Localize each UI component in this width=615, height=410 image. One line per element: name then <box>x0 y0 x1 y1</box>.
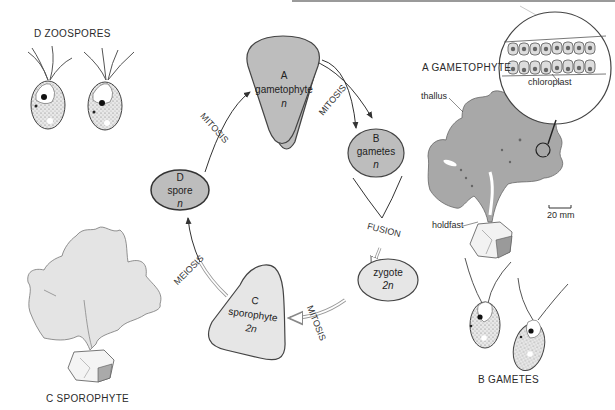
gametophyte-title: A GAMETOPHYTE <box>422 62 511 73</box>
node-b-ploidy: n <box>373 159 379 170</box>
life-cycle-graphics <box>0 0 615 410</box>
zoospores-title: D ZOOSPORES <box>34 28 111 39</box>
zoospore-2 <box>84 48 134 130</box>
scale-bar <box>549 205 571 208</box>
thallus-label: thallus <box>421 91 447 101</box>
node-a-ploidy: n <box>281 98 287 109</box>
chloroplast-label: chloroplast <box>528 77 572 87</box>
scale-label: 20 mm <box>547 210 575 220</box>
gametophyte-holdfast <box>470 222 512 258</box>
node-zygote-name: zygote <box>358 266 418 279</box>
sporophyte-thallus <box>28 227 161 350</box>
zoospore-1 <box>28 46 72 129</box>
sporophyte-holdfast <box>68 350 114 382</box>
gametes-title: B GAMETES <box>478 374 539 385</box>
node-a-name: gametophyte <box>248 83 320 97</box>
gamete-2 <box>508 278 568 374</box>
arrow-b-to-zygote <box>353 176 402 268</box>
gamete-1 <box>465 258 511 348</box>
holdfast-label: holdfast <box>432 220 464 230</box>
node-c-ploidy: 2n <box>245 322 258 334</box>
node-b-letter: B <box>348 132 404 145</box>
node-b-gametes: B gametes n <box>348 132 404 171</box>
arrow-a-to-b <box>312 60 385 135</box>
node-a-gametophyte: A gametophyte n <box>248 69 320 111</box>
node-a-letter: A <box>248 69 320 83</box>
node-zygote: zygote 2n <box>358 266 418 292</box>
node-d-spore: D spore n <box>152 171 208 210</box>
node-d-name: spore <box>152 184 208 197</box>
node-zygote-ploidy: 2n <box>382 280 393 291</box>
sporophyte-title: C SPOROPHYTE <box>46 393 129 404</box>
node-b-name: gametes <box>348 145 404 158</box>
node-d-letter: D <box>152 171 208 184</box>
node-d-ploidy: n <box>177 198 183 209</box>
